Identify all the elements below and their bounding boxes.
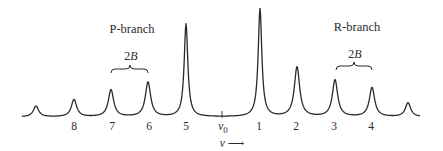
spacing-symbol: B (130, 49, 137, 63)
line-number-r1: 1 (256, 121, 262, 133)
r-branch-label: R-branch (334, 21, 381, 34)
r-spacing-brace (336, 62, 372, 70)
r-spacing-label: 2B (348, 48, 361, 60)
nu-subscript: 0 (223, 125, 228, 135)
frequency-axis-label: v ⟶ (220, 138, 244, 150)
spectrum-figure: P-branch R-branch 2B 2B 8 7 6 5 v0 1 2 3… (0, 0, 443, 151)
spacing-symbol: B (354, 47, 361, 61)
line-number-r4: 4 (368, 121, 374, 133)
line-number-p6: 6 (146, 121, 152, 133)
line-number-r2: 2 (293, 121, 299, 133)
p-spacing-brace (111, 65, 148, 73)
band-center-label: v0 (218, 121, 228, 135)
arrow-right-icon: ⟶ (228, 137, 245, 149)
line-number-r3: 3 (331, 121, 337, 133)
line-number-p8: 8 (71, 121, 77, 133)
p-branch-label: P-branch (109, 23, 154, 36)
axis-symbol: v (220, 137, 225, 149)
line-number-p7: 7 (109, 121, 115, 133)
p-spacing-label: 2B (124, 50, 137, 62)
line-number-p5: 5 (183, 121, 189, 133)
